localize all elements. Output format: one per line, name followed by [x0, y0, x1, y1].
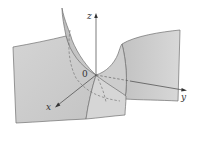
z-axis-arrowhead-icon [94, 13, 98, 18]
saddle-surface-figure: z y x 0 [0, 0, 200, 150]
x-axis-label: x [46, 102, 51, 112]
y-axis-label: y [180, 92, 187, 102]
figure-canvas: z y x 0 [0, 0, 200, 150]
surface-right-panel [122, 30, 180, 101]
z-axis-label: z [86, 11, 92, 21]
surface-left-panel [13, 36, 96, 123]
origin-label: 0 [82, 69, 88, 79]
